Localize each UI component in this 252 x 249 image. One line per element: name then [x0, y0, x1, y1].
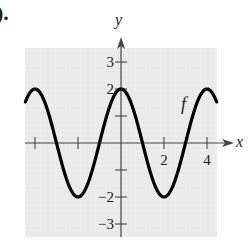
x-tick-label: 2 — [160, 152, 168, 168]
y-tick-label: −2 — [98, 189, 114, 205]
x-axis-label: x — [235, 133, 243, 150]
x-tick-label: 4 — [203, 152, 211, 168]
function-graph: ). 24−3−223 y x f — [0, 0, 252, 249]
y-tick-label: −3 — [98, 216, 114, 232]
part-label: ). — [0, 0, 9, 25]
y-tick-label: 2 — [107, 81, 115, 97]
y-tick-label: 3 — [107, 54, 115, 70]
y-axis-label: y — [113, 11, 123, 29]
